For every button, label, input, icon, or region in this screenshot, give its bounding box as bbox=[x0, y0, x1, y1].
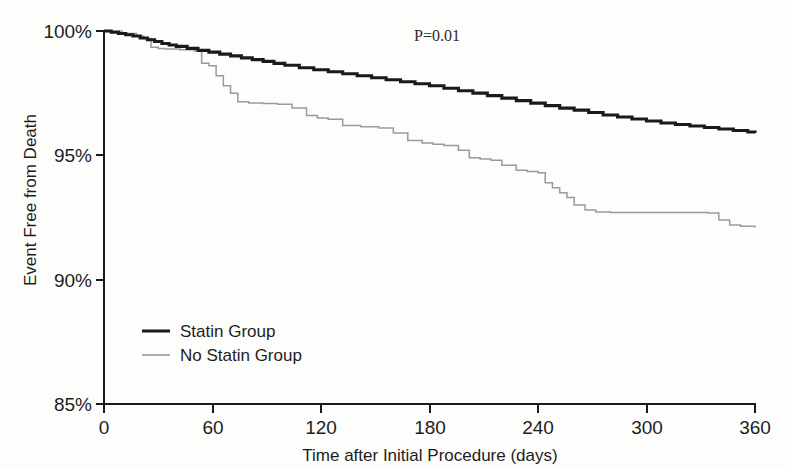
x-tick-label-120: 120 bbox=[305, 417, 337, 438]
curve-no-statin-group bbox=[104, 31, 755, 227]
x-axis-ticks bbox=[104, 404, 755, 413]
y-axis-tick-labels: 100% 95% 90% 85% bbox=[43, 21, 92, 415]
y-tick-label-85: 85% bbox=[54, 394, 92, 415]
x-axis-title: Time after Initial Procedure (days) bbox=[302, 446, 557, 465]
y-tick-label-95: 95% bbox=[54, 145, 92, 166]
x-tick-label-60: 60 bbox=[202, 417, 223, 438]
x-axis-tick-labels: 0 60 120 180 240 300 360 bbox=[99, 417, 771, 438]
curves-group bbox=[104, 31, 755, 227]
kaplan-meier-survival-chart: 100% 95% 90% 85% 0 60 120 180 240 300 36… bbox=[0, 0, 786, 468]
y-axis-title: Event Free from Death bbox=[21, 114, 40, 286]
figure-container: 100% 95% 90% 85% 0 60 120 180 240 300 36… bbox=[0, 0, 786, 468]
legend-label-statin: Statin Group bbox=[180, 322, 275, 341]
curve-statin-group bbox=[104, 31, 755, 133]
pvalue-annotation: P=0.01 bbox=[414, 27, 460, 44]
x-tick-label-240: 240 bbox=[522, 417, 554, 438]
x-tick-label-300: 300 bbox=[631, 417, 663, 438]
x-tick-label-0: 0 bbox=[99, 417, 110, 438]
y-tick-label-90: 90% bbox=[54, 270, 92, 291]
x-tick-label-180: 180 bbox=[414, 417, 446, 438]
legend: Statin Group No Statin Group bbox=[142, 322, 302, 365]
y-tick-label-100: 100% bbox=[43, 21, 92, 42]
x-tick-label-360: 360 bbox=[739, 417, 771, 438]
y-axis-ticks bbox=[96, 31, 104, 404]
legend-label-no-statin: No Statin Group bbox=[180, 346, 302, 365]
